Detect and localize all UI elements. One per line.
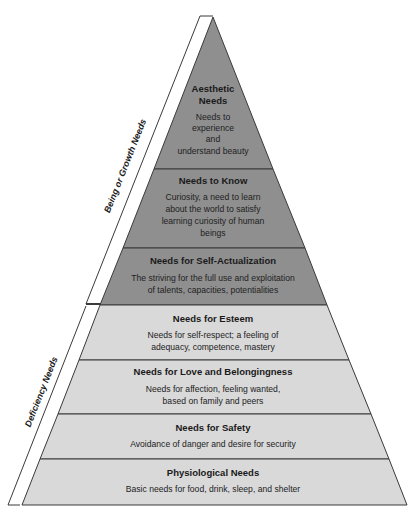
level-title: Physiological Needs (167, 467, 259, 478)
level-desc: Basic needs for food, drink, sleep, and … (126, 484, 301, 494)
level-self-actualization: Needs for Self-Actualization The strivin… (131, 255, 295, 295)
level-physiological-band (22, 459, 407, 505)
level-title: Needs for Love and Belongingness (134, 366, 293, 377)
level-desc: based on family and peers (163, 396, 264, 406)
level-desc: of talents, capacities, potentialities (148, 285, 278, 295)
level-title: Needs (199, 95, 228, 106)
level-desc: experience (192, 123, 234, 133)
level-desc: about the world to satisfy (165, 204, 261, 214)
growth-needs-label: Being or Growth Needs (102, 118, 148, 215)
level-desc: beings (200, 228, 225, 238)
level-desc: Needs to (196, 112, 231, 122)
level-title: Needs for Safety (176, 422, 252, 433)
level-desc: Avoidance of danger and desire for secur… (130, 439, 296, 449)
level-title: Aesthetic (192, 83, 235, 94)
deficiency-needs-label: Deficiency Needs (23, 355, 60, 428)
level-safety-band (40, 414, 389, 459)
level-desc: adequacy, competence, mastery (151, 342, 275, 352)
level-desc: Needs for affection, feeling wanted, (146, 384, 281, 394)
level-title: Needs for Esteem (173, 313, 253, 324)
level-title: Needs to Know (179, 175, 248, 186)
level-desc: understand beauty (177, 146, 249, 156)
level-desc: Needs for self-respect; a feeling of (148, 330, 279, 340)
level-desc: Curiosity, a need to learn (166, 192, 261, 202)
level-desc: The striving for the full use and exploi… (131, 273, 295, 283)
level-desc: learning curiosity of human (162, 216, 265, 226)
maslow-pyramid: Being or Growth Needs Deficiency Needs A… (0, 0, 420, 516)
level-title: Needs for Self-Actualization (150, 255, 276, 266)
level-desc: and (206, 134, 221, 144)
